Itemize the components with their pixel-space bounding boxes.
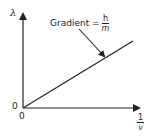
gradient-annotation: Gradient = h m (50, 14, 109, 33)
gradient-numerator: h (102, 14, 109, 24)
annotation-arrow (79, 29, 104, 56)
x-axis-fraction: 1 v (137, 113, 144, 132)
x-axis-denominator: v (138, 123, 143, 132)
y-axis-label: λ (10, 8, 16, 18)
x-axis-numerator: 1 (137, 113, 144, 123)
gradient-fraction: h m (102, 14, 110, 33)
data-line (23, 41, 133, 108)
x-axis-label: 1 v (135, 113, 144, 132)
gradient-prefix: Gradient = (50, 19, 100, 28)
origin-label-x: 0 (19, 112, 25, 121)
gradient-denominator: m (102, 24, 110, 33)
origin-label-y: 0 (12, 102, 18, 111)
